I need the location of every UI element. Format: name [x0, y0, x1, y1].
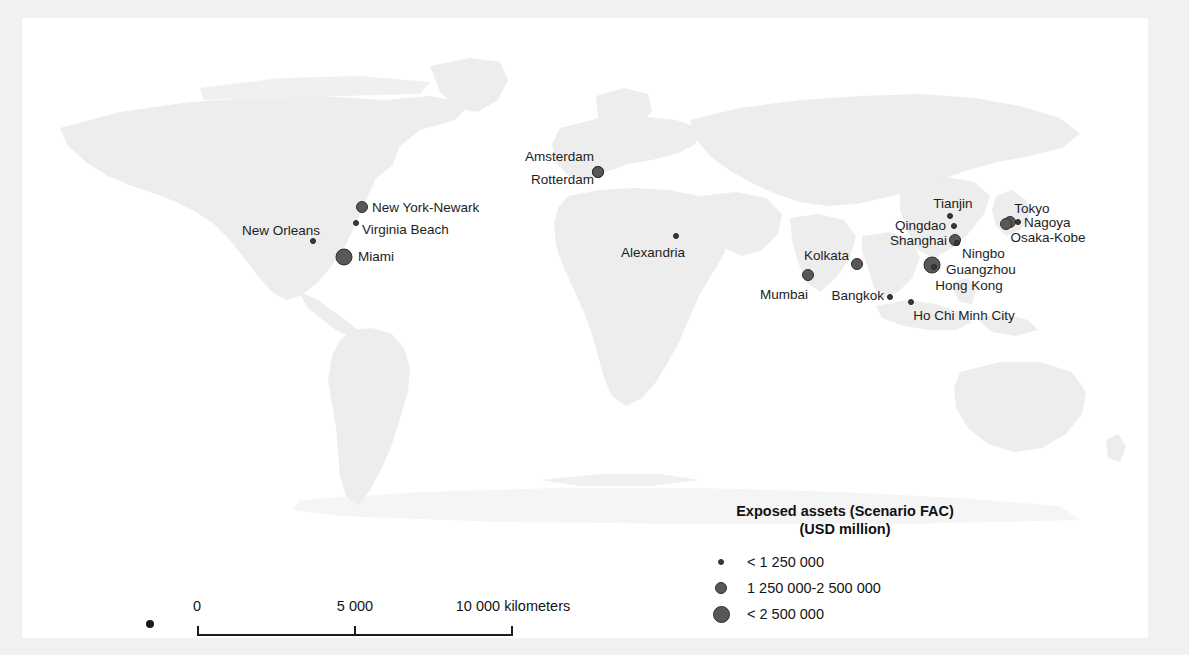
- city-label-amsterdam: Amsterdam: [525, 149, 594, 164]
- city-marker-qingdao[interactable]: [951, 223, 957, 229]
- scalebar-label-end: 10 000 kilometers: [456, 598, 570, 614]
- legend-row: 1 250 000-2 500 000: [695, 575, 1055, 601]
- city-label-rotterdam: Rotterdam: [531, 172, 594, 187]
- city-label-virginia-beach: Virginia Beach: [362, 222, 449, 237]
- city-label-bangkok: Bangkok: [831, 288, 884, 303]
- city-marker-alexandria[interactable]: [673, 233, 679, 239]
- legend-circle-icon: [718, 559, 724, 565]
- city-label-hong-kong: Hong Kong: [935, 278, 1003, 293]
- map-legend: Exposed assets (Scenario FAC) (USD milli…: [695, 502, 1055, 627]
- legend-swatch-cell: [695, 559, 747, 565]
- city-marker-tianjin[interactable]: [947, 213, 953, 219]
- scalebar-dot-icon: [146, 620, 154, 628]
- map-scalebar: 0 5 000 10 000 kilometers: [126, 598, 596, 638]
- legend-swatch-cell: [695, 606, 747, 623]
- scalebar-label-middle: 5 000: [337, 598, 373, 614]
- legend-title: Exposed assets (Scenario FAC) (USD milli…: [695, 502, 995, 538]
- city-label-ho-chi-minh-city: Ho Chi Minh City: [913, 308, 1014, 323]
- legend-swatch-cell: [695, 582, 747, 594]
- city-marker-mumbai[interactable]: [802, 269, 814, 281]
- city-label-alexandria: Alexandria: [621, 245, 685, 260]
- city-label-tokyo: Tokyo: [1014, 201, 1049, 216]
- scalebar-tick-end: [511, 626, 513, 636]
- city-marker-kolkata[interactable]: [851, 258, 863, 270]
- city-label-guangzhou: Guangzhou: [946, 262, 1016, 277]
- city-marker-nagoya[interactable]: [1015, 219, 1021, 225]
- legend-title-line2: (USD million): [695, 520, 995, 538]
- legend-row: < 1 250 000: [695, 549, 1055, 575]
- world-map[interactable]: New OrleansNew York-NewarkVirginia Beach…: [22, 18, 1148, 638]
- city-marker-virginia-beach[interactable]: [353, 220, 359, 226]
- city-label-kolkata: Kolkata: [804, 248, 849, 263]
- map-panel: New OrleansNew York-NewarkVirginia Beach…: [22, 18, 1148, 638]
- legend-label: < 1 250 000: [747, 554, 824, 570]
- city-label-new-york-newark: New York-Newark: [372, 200, 479, 215]
- legend-items: < 1 250 0001 250 000-2 500 000< 2 500 00…: [695, 549, 1055, 627]
- city-label-nagoya: Nagoya: [1024, 215, 1071, 230]
- city-marker-new-orleans[interactable]: [310, 238, 316, 244]
- city-label-ningbo: Ningbo: [962, 246, 1005, 261]
- city-label-tianjin: Tianjin: [933, 196, 972, 211]
- legend-row: < 2 500 000: [695, 601, 1055, 627]
- city-marker-osaka-kobe[interactable]: [1000, 218, 1012, 230]
- city-label-miami: Miami: [358, 249, 394, 264]
- city-label-shanghai: Shanghai: [890, 233, 947, 248]
- figure-title-clipped: [0, 0, 1189, 6]
- city-label-qingdao: Qingdao: [895, 218, 946, 233]
- city-marker-ningbo[interactable]: [954, 240, 960, 246]
- scalebar-axis: [197, 624, 513, 636]
- city-marker-ho-chi-minh-city[interactable]: [908, 299, 914, 305]
- legend-circle-icon: [713, 606, 730, 623]
- legend-label: 1 250 000-2 500 000: [747, 580, 881, 596]
- city-marker-new-york-newark[interactable]: [356, 201, 368, 213]
- legend-title-line1: Exposed assets (Scenario FAC): [695, 502, 995, 520]
- city-label-new-orleans: New Orleans: [242, 223, 320, 238]
- scalebar-tick-start: [197, 626, 199, 636]
- city-label-mumbai: Mumbai: [760, 287, 808, 302]
- legend-circle-icon: [715, 582, 727, 594]
- legend-label: < 2 500 000: [747, 606, 824, 622]
- scalebar-tick-middle: [354, 626, 356, 636]
- city-label-osaka-kobe: Osaka-Kobe: [1010, 230, 1085, 245]
- figure-page: New OrleansNew York-NewarkVirginia Beach…: [0, 0, 1189, 655]
- city-marker-miami[interactable]: [336, 249, 353, 266]
- scalebar-label-start: 0: [193, 598, 201, 614]
- city-marker-bangkok[interactable]: [887, 294, 893, 300]
- city-marker-hong-kong[interactable]: [931, 264, 937, 270]
